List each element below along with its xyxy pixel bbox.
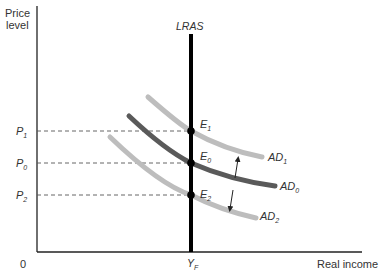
shift-down-arrow <box>230 190 233 209</box>
ad1-label: AD1 <box>267 151 287 165</box>
e0-label: E0 <box>200 150 211 164</box>
e2-label: E2 <box>200 188 211 202</box>
e1-point <box>187 127 195 135</box>
ad-as-diagram: Price level Real income 0 LRAS YF P1 P0 … <box>0 0 383 276</box>
x-axis-label: Real income <box>317 258 378 270</box>
shift-up-arrow <box>235 159 238 178</box>
y-axis-label-line1: Price <box>5 7 30 19</box>
y-axis-label-line2: level <box>6 19 29 31</box>
p1-label: P1 <box>16 125 27 139</box>
origin-label: 0 <box>20 258 26 270</box>
e1-label: E1 <box>200 118 211 132</box>
ad0-label: AD0 <box>279 180 299 194</box>
e2-point <box>187 191 195 199</box>
p2-label: P2 <box>16 189 27 203</box>
ad2-label: AD2 <box>259 210 279 224</box>
p0-label: P0 <box>16 157 27 171</box>
lras-label: LRAS <box>176 20 203 32</box>
yf-label: YF <box>187 257 199 271</box>
e0-point <box>187 159 195 167</box>
